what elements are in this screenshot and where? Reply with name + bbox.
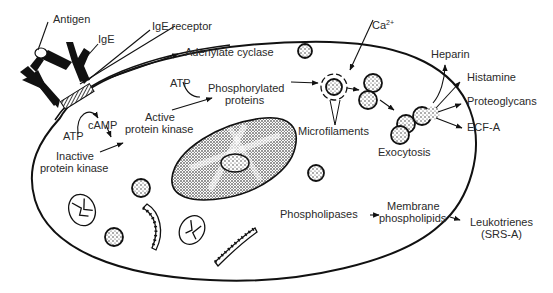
- granule-icon: [359, 91, 377, 109]
- mitochondrion-icon: [64, 191, 99, 230]
- leukotrienes-label-1: Leukotrienes: [470, 216, 533, 228]
- antigen-label: Antigen: [53, 13, 90, 25]
- ige-label: IgE: [98, 33, 115, 45]
- atp-top-label: ATP: [170, 77, 191, 89]
- heparin-label: Heparin: [431, 48, 470, 60]
- microfilament-pointers: [330, 100, 340, 125]
- adenylate-cyclase-label: Adenylate cyclase: [185, 46, 274, 58]
- active-pk-label-1: Active: [145, 111, 175, 123]
- rough-er-icon: [215, 228, 257, 266]
- granule-icon: [364, 74, 382, 92]
- histamine-label: Histamine: [467, 71, 516, 83]
- phosphorylated-label-1: Phosphorylated: [208, 82, 284, 94]
- membrane-pl-label-1: Membrane: [387, 200, 440, 212]
- phospholipases-label: Phospholipases: [280, 208, 358, 220]
- ecfa-label: ECF-A: [467, 121, 501, 133]
- granule-icon: [326, 79, 342, 95]
- exocytosis-label: Exocytosis: [378, 146, 431, 158]
- mitochondrion-icon: [174, 211, 210, 249]
- proteoglycans-label: Proteoglycans: [467, 95, 537, 107]
- leukotrienes-label-2: (SRS-A): [481, 228, 522, 240]
- membrane-pl-label-2: phospholipids: [379, 212, 447, 224]
- adenylate-cyclase-icon: [60, 84, 94, 110]
- atp-left-label: ATP: [63, 130, 84, 142]
- microfilaments-label: Microfilaments: [298, 125, 369, 137]
- granule-icon: [298, 44, 312, 58]
- ige-receptor-label: IgE receptor: [152, 20, 212, 32]
- active-pk-label-2: protein kinase: [125, 123, 194, 135]
- phosphorylated-label-2: proteins: [225, 94, 265, 106]
- granule-icon: [132, 179, 150, 197]
- inactive-pk-label-1: Inactive: [56, 150, 94, 162]
- inactive-pk-label-2: protein kinase: [40, 162, 109, 174]
- mitochondria: [64, 191, 210, 249]
- mast-cell-diagram: Antigen IgE IgE receptor Adenylate cycla…: [0, 0, 553, 293]
- antigen-icon: [35, 48, 47, 58]
- granule-icon: [308, 165, 324, 181]
- ca-label: Ca2+: [372, 19, 394, 31]
- granule-icon: [105, 228, 123, 246]
- nucleolus-icon: [221, 154, 249, 172]
- camp-label: cAMP: [88, 119, 117, 131]
- rough-er-icon: [143, 204, 161, 250]
